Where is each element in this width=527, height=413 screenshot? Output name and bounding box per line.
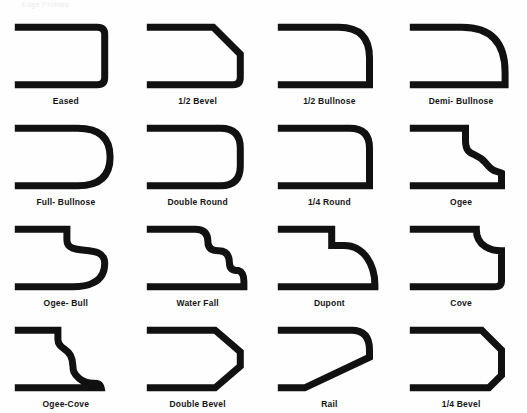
edge-profile-chart: Edge Profiles Eased 1/2 Bevel 1/2 Bullno… <box>0 0 527 413</box>
profile-label-demi-bullnose: Demi- Bullnose <box>429 96 494 106</box>
profile-path-double-bevel <box>150 330 240 388</box>
profile-label-quarter-bevel: 1/4 Bevel <box>442 399 481 409</box>
profile-label-water-fall: Water Fall <box>176 298 218 308</box>
profile-path-demi-bullnose <box>413 27 505 85</box>
profile-cell-full-bullnose[interactable]: Full- Bullnose <box>0 110 132 211</box>
profile-grid: Eased 1/2 Bevel 1/2 Bullnose Demi- Bulln… <box>0 9 527 413</box>
profile-path-ogee-cove <box>18 330 101 388</box>
profile-label-double-bevel: Double Bevel <box>170 399 226 409</box>
profile-label-quarter-round: 1/4 Round <box>308 197 351 207</box>
profile-cell-demi-bullnose[interactable]: Demi- Bullnose <box>395 9 527 110</box>
profile-label-ogee-cove: Ogee-Cove <box>43 399 90 409</box>
profile-cell-double-round[interactable]: Double Round <box>132 110 264 211</box>
profile-label-ogee-bull: Ogee- Bull <box>44 298 89 308</box>
profile-label-half-bullnose: 1/2 Bullnose <box>303 96 355 106</box>
profile-cell-quarter-bevel[interactable]: 1/4 Bevel <box>395 312 527 413</box>
top-cut-off-text: Edge Profiles <box>0 0 527 9</box>
profile-shape-demi-bullnose <box>400 20 522 92</box>
profile-cell-double-bevel[interactable]: Double Bevel <box>132 312 264 413</box>
profile-label-dupont: Dupont <box>314 298 345 308</box>
profile-cell-ogee-bull[interactable]: Ogee- Bull <box>0 211 132 312</box>
profile-path-half-bullnose <box>282 27 370 85</box>
profile-path-dupont <box>282 229 376 287</box>
profile-path-ogee <box>413 128 501 186</box>
profile-path-quarter-bevel <box>413 330 501 388</box>
profile-path-rail <box>282 330 370 388</box>
profile-shape-ogee-bull <box>5 222 127 294</box>
profile-label-full-bullnose: Full- Bullnose <box>36 197 95 207</box>
profile-label-half-bevel: 1/2 Bevel <box>178 96 217 106</box>
profile-shape-water-fall <box>137 222 259 294</box>
profile-cell-rail[interactable]: Rail <box>264 312 396 413</box>
profile-path-full-bullnose <box>18 128 110 186</box>
profile-label-eased: Eased <box>53 96 79 106</box>
profile-path-double-round <box>150 128 240 186</box>
profile-shape-ogee-cove <box>5 323 127 395</box>
profile-shape-double-round <box>137 121 259 193</box>
profile-label-ogee: Ogee <box>450 197 472 207</box>
profile-path-quarter-round <box>282 128 370 186</box>
profile-path-water-fall <box>150 229 244 287</box>
profile-shape-eased <box>5 20 127 92</box>
profile-cell-half-bevel[interactable]: 1/2 Bevel <box>132 9 264 110</box>
profile-cell-ogee[interactable]: Ogee <box>395 110 527 211</box>
profile-cell-eased[interactable]: Eased <box>0 9 132 110</box>
profile-shape-half-bevel <box>137 20 259 92</box>
profile-cell-quarter-round[interactable]: 1/4 Round <box>264 110 396 211</box>
profile-path-ogee-bull <box>18 229 104 287</box>
profile-shape-quarter-bevel <box>400 323 522 395</box>
profile-label-double-round: Double Round <box>167 197 227 207</box>
profile-cell-water-fall[interactable]: Water Fall <box>132 211 264 312</box>
profile-shape-full-bullnose <box>5 121 127 193</box>
profile-shape-cove <box>400 222 522 294</box>
profile-label-cove: Cove <box>450 298 472 308</box>
profile-shape-ogee <box>400 121 522 193</box>
profile-cell-half-bullnose[interactable]: 1/2 Bullnose <box>264 9 396 110</box>
profile-shape-half-bullnose <box>268 20 390 92</box>
profile-shape-double-bevel <box>137 323 259 395</box>
profile-shape-rail <box>268 323 390 395</box>
profile-path-cove <box>413 229 501 287</box>
profile-path-half-bevel <box>150 27 240 85</box>
profile-shape-dupont <box>268 222 390 294</box>
profile-cell-cove[interactable]: Cove <box>395 211 527 312</box>
profile-path-eased <box>18 27 104 85</box>
profile-label-rail: Rail <box>321 399 337 409</box>
profile-cell-ogee-cove[interactable]: Ogee-Cove <box>0 312 132 413</box>
profile-cell-dupont[interactable]: Dupont <box>264 211 396 312</box>
profile-shape-quarter-round <box>268 121 390 193</box>
